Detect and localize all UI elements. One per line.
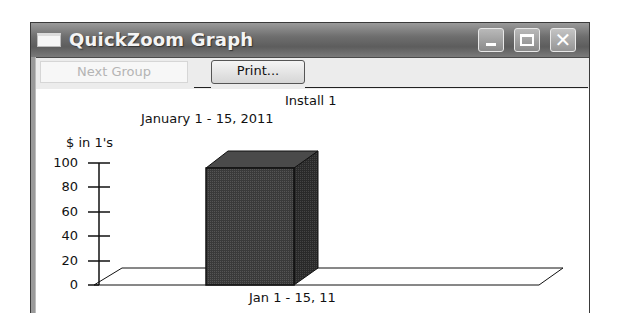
toolbar-divider-left: [194, 87, 211, 88]
maximize-button[interactable]: [514, 28, 540, 52]
chart-title: Install 1: [285, 93, 337, 108]
bar-chart-3d: [36, 89, 589, 313]
chart-area: Install 1 January 1 - 15, 2011 $ in 1's …: [36, 89, 589, 313]
y-tick-60: 60: [42, 204, 78, 219]
x-category-label: Jan 1 - 15, 11: [249, 290, 336, 305]
window-title: QuickZoom Graph: [69, 29, 253, 50]
minimize-button[interactable]: [478, 28, 504, 52]
close-icon: ✕: [551, 29, 575, 51]
y-axis-label: $ in 1's: [66, 135, 113, 150]
chart-floor: [94, 268, 563, 285]
chart-subtitle: January 1 - 15, 2011: [141, 111, 274, 126]
next-group-button[interactable]: Next Group: [40, 61, 188, 83]
title-bar[interactable]: QuickZoom Graph ✕: [31, 23, 589, 58]
y-tick-80: 80: [42, 179, 78, 194]
bar-front: [206, 168, 294, 285]
toolbar-divider-right: [305, 87, 588, 88]
close-button[interactable]: ✕: [550, 28, 576, 52]
y-tick-0: 0: [42, 277, 78, 292]
maximize-icon: [520, 34, 534, 46]
bar-side: [294, 151, 318, 285]
y-tick-20: 20: [42, 253, 78, 268]
quickzoom-graph-window: QuickZoom Graph ✕ Next Group Print...: [30, 22, 590, 313]
minimize-icon: [486, 43, 496, 46]
toolbar: Next Group Print...: [36, 58, 588, 88]
window-icon: [37, 33, 61, 47]
y-tick-100: 100: [42, 155, 78, 170]
y-tick-40: 40: [42, 228, 78, 243]
print-button[interactable]: Print...: [211, 60, 305, 84]
